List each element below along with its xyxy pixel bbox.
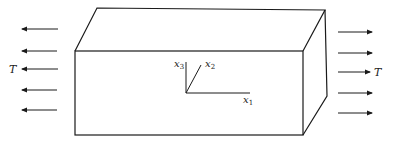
block xyxy=(75,8,327,135)
left-tension-arrows xyxy=(22,29,58,110)
block-top-face xyxy=(75,8,325,51)
axis-x3-label: x3 xyxy=(174,58,184,71)
axis-x2 xyxy=(186,65,201,93)
tension-block-diagram: T T x3 x2 x1 xyxy=(0,0,397,151)
coordinate-axes xyxy=(186,62,250,93)
axis-x1-label: x1 xyxy=(243,94,253,107)
right-tension-arrows xyxy=(338,32,372,113)
axis-x2-label: x2 xyxy=(205,58,215,71)
left-tension-label: T xyxy=(9,63,18,76)
right-tension-label: T xyxy=(374,66,383,79)
